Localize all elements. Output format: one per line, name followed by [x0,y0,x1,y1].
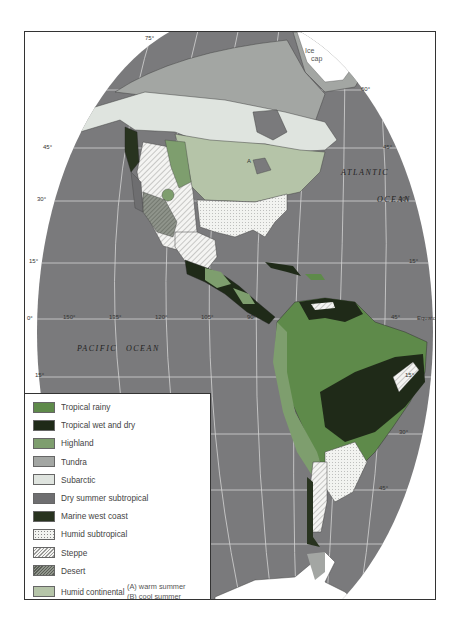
swatch-steppe [33,547,55,558]
lat-tick-right-45: 45° [383,144,392,150]
legend-label: Marine west coast [61,511,128,521]
humid-continental-subtypes: (A) warm summer (B) cool summer [127,582,185,600]
lon-tick-90: 90° [247,314,256,320]
swatch-marine-west-coast [33,511,55,522]
legend-label: Humid continental [61,587,124,597]
pacific-label: PACIFIC [77,344,117,353]
legend-item-tropical-wet-dry: Tropical wet and dry [33,416,210,434]
lon-tick-135: 135° [109,314,121,320]
ice-cap-label: Ice [305,47,314,54]
legend-item-highland: Highland [33,434,210,452]
lat-tick-left-30: 30° [37,196,46,202]
legend-item-marine-west-coast: Marine west coast [33,507,210,525]
swatch-highland [33,438,55,449]
swatch-humid-continental [33,586,55,597]
map-frame: ATLANTIC OCEAN PACIFIC OCEAN Equator Ice… [24,31,436,600]
swatch-subarctic [33,474,55,485]
lat-tick-right-60: 60° [361,86,370,92]
lon-tick-150: 150° [63,314,75,320]
legend-label: Desert [61,566,85,576]
legend-item-humid-continental: Humid continental (A) warm summer (B) co… [33,580,210,600]
legend-item-desert: Desert [33,562,210,580]
lat-tick-left-45: 45° [43,144,52,150]
lat-tick-right-s15: 15° [405,372,414,378]
lat-tick-left-0: 0° [27,315,33,321]
lat-tick-right-30: 30° [399,196,408,202]
legend-item-steppe: Steppe [33,544,210,562]
atlantic-label: ATLANTIC [341,168,389,177]
legend-item-subarctic: Subarctic [33,471,210,489]
swatch-dry-summer-subtropical [33,493,55,504]
legend-item-dry-summer-subtropical: Dry summer subtropical [33,489,210,507]
lat-tick-top-75: 75° [145,35,154,41]
legend-item-tropical-rainy: Tropical rainy [33,398,210,416]
legend-label: Dry summer subtropical [61,493,148,503]
lon-tick-120: 120° [155,314,167,320]
legend-label: Steppe [61,548,87,558]
equator-label: Equator [417,315,436,321]
lat-tick-right-15: 15° [409,258,418,264]
highland-patch [162,189,174,201]
swatch-desert [33,565,55,576]
legend-label: Subarctic [61,475,96,485]
legend-item-humid-subtropical: Humid subtropical [33,525,210,543]
legend-label: Highland [61,438,94,448]
legend-label: Humid subtropical [61,529,127,539]
lat-tick-left-15: 15° [29,258,38,264]
pacific-ocean-label: OCEAN [126,344,160,353]
lon-tick-105: 105° [201,314,213,320]
legend-label: Tropical rainy [61,402,110,412]
lon-tick-45: 45° [391,314,400,320]
swatch-tropical-rainy [33,402,55,413]
swatch-humid-subtropical [33,529,55,540]
ice-cap-label-2: cap [311,55,322,62]
subtype-warm-summer: (A) warm summer [127,582,185,592]
map-legend: Tropical rainy Tropical wet and dry High… [25,393,211,600]
swatch-tundra [33,456,55,467]
legend-label: Tropical wet and dry [61,420,135,430]
legend-label: Tundra [61,457,87,467]
swatch-tropical-wet-dry [33,420,55,431]
lat-tick-right-s30: 30° [399,429,408,435]
lat-tick-left-s15: 15° [35,372,44,378]
legend-item-tundra: Tundra [33,453,210,471]
subtype-cool-summer: (B) cool summer [127,592,185,600]
region-a-label: A [247,158,251,164]
lat-tick-right-s45: 45° [379,485,388,491]
